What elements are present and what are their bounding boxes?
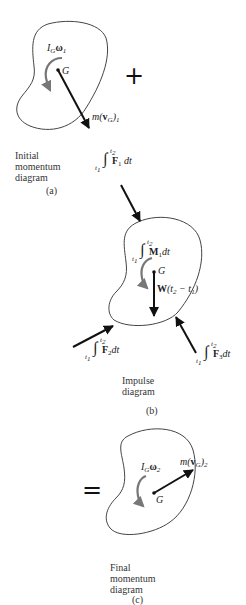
plus-operator: + <box>124 64 144 88</box>
rigid-body-outline-c <box>106 429 195 535</box>
linear-momentum-arrow-a <box>58 70 89 128</box>
panel-label-b: (b) <box>146 405 158 416</box>
caption-a-line-3: diagram <box>15 172 85 183</box>
force-impulse-arrow-f3 <box>176 317 196 353</box>
linear-momentum-label-a: m(vG)1 <box>92 112 119 124</box>
mass-center-label-c: G <box>156 495 163 505</box>
panel-label-c: (c) <box>132 594 143 605</box>
moment-impulse-label: t2 ∫ t1 M1dt <box>132 238 182 268</box>
force-impulse-label-f3: t2 ∫ t1 F3dt <box>196 340 246 370</box>
equals-operator: = <box>82 478 102 502</box>
caption-c: Final momentum diagram <box>110 562 170 595</box>
caption-b: Impulse diagram <box>122 375 182 397</box>
angular-momentum-label-c: IGω2 <box>141 462 160 474</box>
mass-center-label-b: G <box>158 266 165 276</box>
force-impulse-label-f2: t2 ∫ t1 F2dt <box>85 336 135 366</box>
weight-impulse-label: W(t2 − t1) <box>157 284 198 296</box>
panel-label-a: (a) <box>46 185 57 196</box>
force-impulse-arrow-f1 <box>121 185 140 221</box>
angular-momentum-curl-arrow-c <box>137 476 146 506</box>
caption-c-line-1: Final <box>110 562 170 573</box>
caption-a-line-1: Initial <box>15 150 85 161</box>
mass-center-label-a: G <box>62 66 69 76</box>
angular-momentum-label-a: IGω1 <box>47 43 66 55</box>
caption-c-line-2: momentum <box>110 573 170 584</box>
caption-a: Initial momentum diagram <box>15 150 85 183</box>
caption-a-line-2: momentum <box>15 161 85 172</box>
force-impulse-label-f1: t2 ∫ t1 F1 dt <box>95 147 145 177</box>
caption-b-line-2: diagram <box>122 386 182 397</box>
caption-b-line-1: Impulse <box>122 375 182 386</box>
linear-momentum-label-c: m(vG)2 <box>180 457 207 469</box>
